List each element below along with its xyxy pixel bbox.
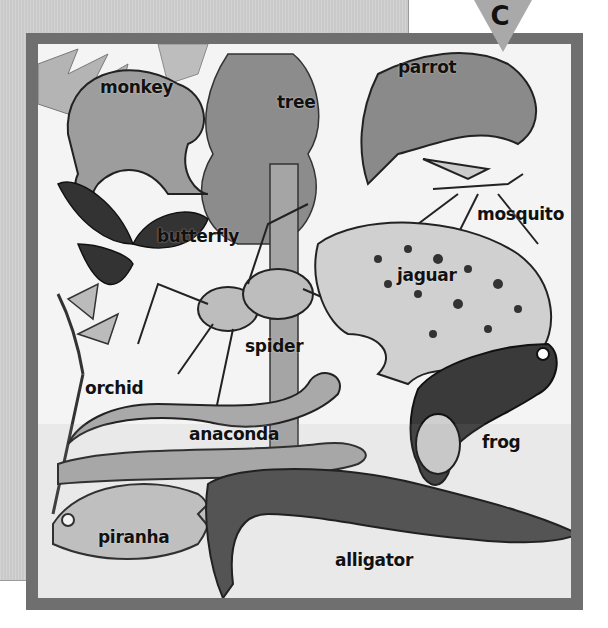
label-anaconda: anaconda [189,424,279,444]
label-frog: frog [482,432,520,452]
label-jaguar: jaguar [397,265,457,285]
section-marker-letter: C [482,2,518,30]
label-tree: tree [277,92,315,112]
rainforest-scene-drawing [38,44,571,598]
label-spider: spider [245,336,303,356]
label-orchid: orchid [85,378,143,398]
label-mosquito: mosquito [477,204,564,224]
label-piranha: piranha [98,527,169,547]
illustration-frame [26,33,583,610]
rainforest-illustration [38,44,571,598]
label-butterfly: butterfly [157,226,239,246]
label-parrot: parrot [398,57,456,77]
label-alligator: alligator [335,550,413,570]
label-monkey: monkey [100,77,173,97]
